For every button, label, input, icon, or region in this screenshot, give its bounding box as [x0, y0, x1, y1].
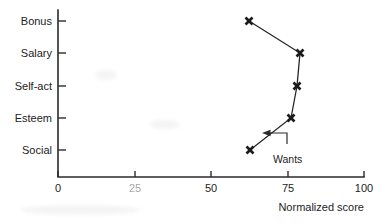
- x-tick-label-75: 75: [282, 182, 294, 194]
- annotation-leader-line: [268, 133, 287, 144]
- y-tick-label-esteem: Esteem: [15, 112, 52, 124]
- x-tick-label-0: 0: [55, 182, 61, 194]
- y-tick-label-social: Social: [22, 144, 52, 156]
- annotation-label-wants: Wants: [273, 153, 302, 165]
- axis-spines: [58, 10, 364, 177]
- chart-figure: Bonus Salary Self-act Esteem Social 0 25…: [0, 0, 381, 224]
- x-tick-marks: [58, 171, 364, 177]
- x-tick-label-25: 25: [129, 182, 141, 194]
- y-tick-label-self-act: Self-act: [15, 80, 52, 92]
- annotation-arrowhead-icon: [262, 130, 271, 136]
- data-point-bonus: [246, 18, 253, 25]
- x-tick-label-50: 50: [205, 182, 217, 194]
- annotation-wants: Wants: [262, 130, 302, 165]
- y-tick-label-salary: Salary: [21, 47, 53, 59]
- data-point-social: [247, 147, 254, 154]
- x-tick-labels: 0 25 50 75 100: [55, 182, 373, 194]
- x-tick-label-100: 100: [355, 182, 373, 194]
- y-tick-labels: Bonus Salary Self-act Esteem Social: [15, 15, 53, 156]
- axis-group: [58, 10, 364, 177]
- data-series-wants-line: [249, 21, 300, 150]
- x-axis-title: Normalized score: [278, 201, 364, 213]
- line-chart-svg: Bonus Salary Self-act Esteem Social 0 25…: [0, 0, 381, 224]
- y-tick-label-bonus: Bonus: [21, 15, 53, 27]
- y-tick-marks: [58, 21, 66, 150]
